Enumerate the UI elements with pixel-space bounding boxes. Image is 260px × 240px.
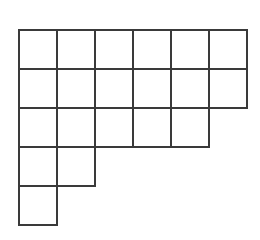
grid-cell-r2-c6 (209, 69, 247, 108)
grid-cell-r1-c5 (171, 30, 209, 69)
grid-cell-r3-c2 (57, 108, 95, 147)
grid-cell-r1-c2 (57, 30, 95, 69)
grid-cells-group (19, 30, 247, 225)
grid-cell-r1-c3 (95, 30, 133, 69)
grid-cell-r2-c2 (57, 69, 95, 108)
grid-cell-r3-c3 (95, 108, 133, 147)
grid-cell-r4-c1 (19, 147, 57, 186)
grid-cell-r2-c4 (133, 69, 171, 108)
grid-cell-r1-c6 (209, 30, 247, 69)
grid-cell-r2-c3 (95, 69, 133, 108)
grid-cell-r2-c5 (171, 69, 209, 108)
grid-cell-r3-c4 (133, 108, 171, 147)
grid-cell-r5-c1 (19, 186, 57, 225)
grid-cell-r3-c1 (19, 108, 57, 147)
grid-cell-r4-c2 (57, 147, 95, 186)
grid-cell-r1-c1 (19, 30, 57, 69)
grid-figure (0, 0, 260, 240)
grid-cell-r2-c1 (19, 69, 57, 108)
grid-cell-r1-c4 (133, 30, 171, 69)
grid-cell-r3-c5 (171, 108, 209, 147)
figure-canvas (0, 0, 260, 240)
